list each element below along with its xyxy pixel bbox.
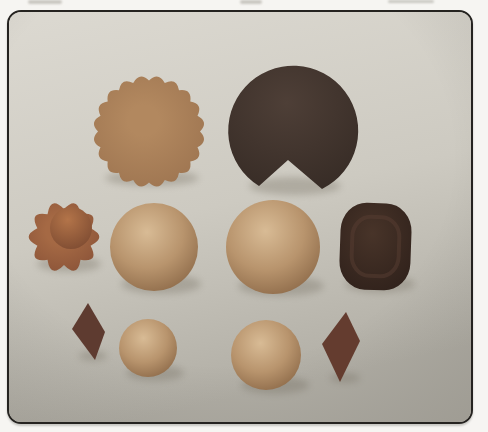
- scanned-photo-page: { "figure": { "type": "photograph", "des…: [0, 0, 488, 432]
- scalloped-disc: [94, 76, 204, 186]
- sphere-middle-left: [110, 203, 198, 291]
- scan-smudge: [388, 0, 434, 3]
- dark-lump: [338, 202, 412, 291]
- flower-dome: [50, 207, 92, 249]
- photo: [9, 12, 471, 422]
- shadow: [330, 373, 360, 383]
- photo-frame: [7, 10, 473, 424]
- sphere-bottom-left: [119, 319, 177, 377]
- sphere-bottom-center: [231, 320, 301, 390]
- scan-smudge: [240, 0, 262, 4]
- sphere-middle-center: [226, 200, 320, 294]
- scan-smudge: [28, 0, 62, 4]
